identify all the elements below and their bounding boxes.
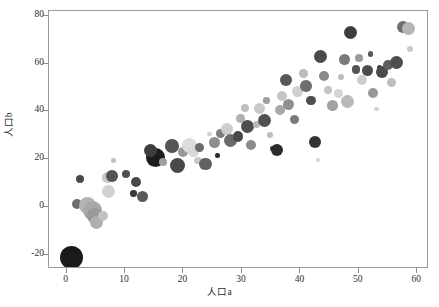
x-tick-mark <box>66 268 67 273</box>
y-axis-title: 人口b <box>5 95 15 155</box>
x-tick-label: 60 <box>412 275 422 285</box>
x-tick-label: 50 <box>353 275 363 285</box>
x-tick-mark <box>416 268 417 273</box>
x-tick-mark <box>124 268 125 273</box>
x-tick-mark <box>241 268 242 273</box>
x-tick-mark <box>182 268 183 273</box>
x-tick-mark <box>358 268 359 273</box>
x-tick-label: 10 <box>119 275 129 285</box>
x-tick-label: 30 <box>236 275 246 285</box>
x-tick-mark <box>299 268 300 273</box>
scatter-plot-figure: 806040200-20 0102030405060 人口a 人口b <box>0 0 439 307</box>
x-axis: 0102030405060 <box>0 0 439 307</box>
x-tick-label: 40 <box>295 275 305 285</box>
x-axis-title: 人口a <box>0 288 439 298</box>
x-tick-label: 0 <box>63 275 68 285</box>
x-tick-label: 20 <box>178 275 188 285</box>
